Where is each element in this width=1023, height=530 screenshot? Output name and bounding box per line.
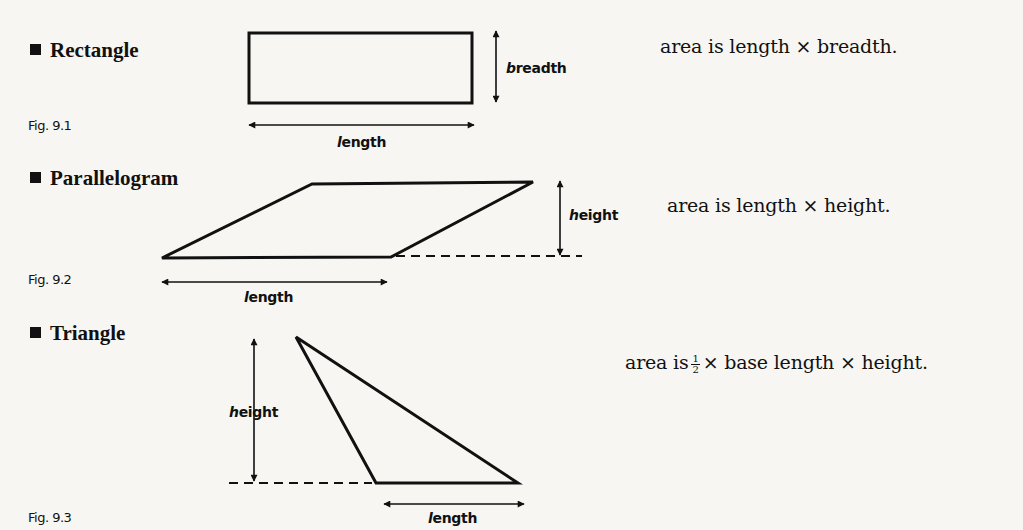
triangle-length-label: length [428,510,477,526]
triangle-heading: Triangle [30,321,125,346]
parallelogram-area-formula: area is length × height. [667,194,890,216]
height-label-rest: eight [239,404,278,420]
triangle-height-label: height [229,404,278,420]
figure-caption-9-1: Fig. 9.1 [28,118,71,133]
height-label-initial: h [569,207,579,223]
figures-canvas [0,0,1023,530]
bullet-icon [30,327,41,338]
bullet-icon [30,172,41,183]
parallelogram-heading: Parallelogram [30,166,178,191]
fraction-denominator: 2 [691,365,699,375]
bullet-icon [30,44,41,55]
rectangle-shape [249,33,472,103]
length-label-rest: ength [249,289,294,305]
triangle-area-formula: area is12× base length × height. [625,351,928,375]
figure-caption-9-2: Fig. 9.2 [28,272,71,287]
rectangle-title: Rectangle [50,38,139,62]
parallelogram-height-label: height [569,207,618,223]
parallelogram-length-label: length [244,289,293,305]
figure-caption-9-3: Fig. 9.3 [28,510,71,525]
triangle-title: Triangle [50,321,125,345]
fraction-numerator: 1 [691,354,699,365]
length-label-rest: ength [342,134,387,150]
rectangle-area-formula: area is length × breadth. [660,35,897,57]
rectangle-length-label: length [337,134,386,150]
height-label-initial: h [229,404,239,420]
breadth-label-rest: readth [516,60,567,76]
height-label-rest: eight [579,207,618,223]
formula-suffix: × base length × height. [703,351,928,373]
length-label-rest: ength [433,510,478,526]
rectangle-heading: Rectangle [30,38,139,63]
formula-prefix: area is [625,351,688,373]
breadth-label: breadth [506,60,566,76]
one-half-fraction: 12 [691,354,699,375]
triangle-shape [296,337,518,483]
breadth-label-initial: b [506,60,516,76]
parallelogram-title: Parallelogram [50,166,178,190]
parallelogram-shape [162,182,533,258]
